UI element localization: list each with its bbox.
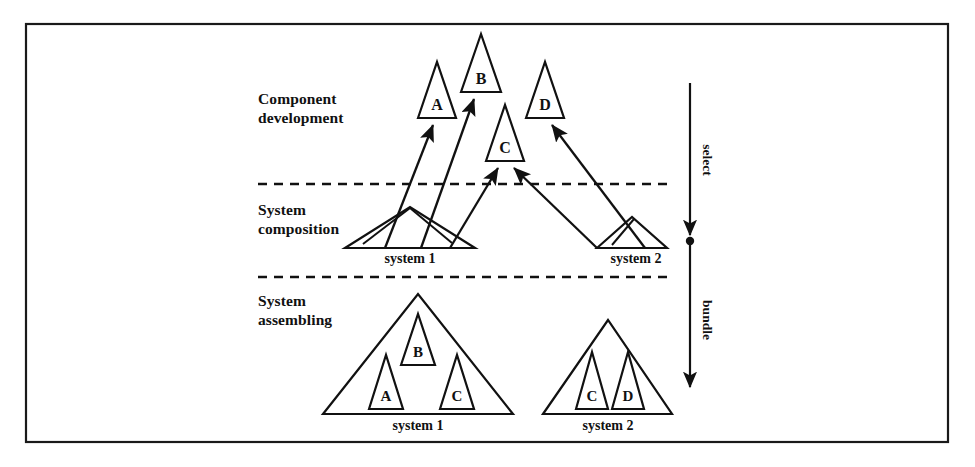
component-a-letter: A — [431, 96, 443, 113]
composition-system-1-label: system 1 — [385, 251, 436, 266]
assembled-system-1-child-b-letter: B — [413, 344, 423, 360]
assembled-system-2-child-c-letter: C — [587, 388, 598, 404]
figure-root: Component development System composition… — [0, 0, 975, 467]
arrow-system1-to-b — [421, 99, 474, 248]
assembled-system-2-child-d-letter: D — [623, 388, 634, 404]
assembled-system-1-label: system 1 — [393, 418, 444, 433]
stage-label-system-composition-line1: System — [258, 201, 306, 218]
process-diagram: Component development System composition… — [0, 0, 975, 467]
composition-system-2-label: system 2 — [611, 251, 662, 266]
stage-label-system-composition-line2: composition — [258, 220, 339, 237]
component-d-letter: D — [539, 96, 551, 113]
assembled-system-1-child-a-letter: A — [381, 388, 392, 404]
stage-label-system-assembling-line1: System — [258, 292, 306, 309]
component-triangles: A B C D — [418, 34, 564, 161]
assembled-system-2-triangle — [543, 320, 672, 414]
arrow-system1-to-c — [450, 168, 498, 248]
composition-systems: system 1 system 2 — [345, 207, 667, 266]
assembled-systems: B A C C D system 1 system 2 — [323, 294, 672, 433]
arrow-system2-to-c — [514, 168, 597, 248]
arrow-system2-to-d — [552, 125, 645, 248]
assembled-system-1-child-c-letter: C — [452, 388, 463, 404]
component-b-letter: B — [476, 70, 487, 87]
bundle-label: bundle — [700, 300, 715, 340]
stage-label-system-assembling-line2: assembling — [258, 311, 332, 328]
stage-labels: Component development System composition… — [258, 90, 344, 328]
select-label: select — [700, 144, 715, 176]
stage-label-component-development-line2: development — [258, 109, 344, 126]
stage-label-component-development-line1: Component — [258, 90, 337, 107]
axis-midpoint-dot — [686, 237, 694, 245]
process-axis: select bundle — [686, 83, 715, 387]
component-c-letter: C — [499, 139, 511, 156]
assembled-system-2-label: system 2 — [583, 418, 634, 433]
